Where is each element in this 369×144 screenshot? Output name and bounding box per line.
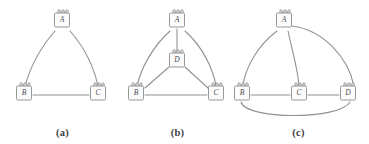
node-c-B[interactable]: B	[235, 83, 250, 100]
graph-c-canvas: A B C D	[228, 0, 369, 118]
graph-panel-c: A B C D (c)	[228, 0, 369, 144]
node-label: B	[134, 88, 139, 97]
edge-c-B-D	[241, 102, 350, 116]
node-c-D[interactable]: D	[341, 83, 356, 100]
node-label: D	[344, 88, 351, 97]
node-label: A	[59, 15, 65, 24]
graph-panel-b: A D B C (b)	[115, 0, 240, 144]
node-c-A[interactable]: A	[277, 10, 292, 27]
graph-panel-a: A B C (a)	[0, 0, 125, 144]
edge-c-A-D	[292, 26, 354, 86]
node-label: A	[281, 15, 287, 24]
node-b-A[interactable]: A	[170, 10, 185, 27]
edge-b-A-B	[137, 31, 170, 86]
graph-a-canvas: A B C	[0, 0, 125, 118]
node-a-C[interactable]: C	[91, 83, 106, 100]
panel-a-caption: (a)	[0, 127, 125, 138]
edge-b-D-C	[185, 67, 208, 88]
node-b-C[interactable]: C	[209, 83, 224, 100]
node-b-B[interactable]: B	[129, 83, 144, 100]
figure-three-graphs: A B C (a)	[0, 0, 369, 144]
node-label: B	[240, 88, 245, 97]
edge-a-A-B	[25, 31, 55, 86]
edge-c-A-C	[288, 31, 299, 86]
node-label: D	[173, 55, 180, 64]
edge-b-D-B	[145, 67, 169, 88]
node-b-D[interactable]: D	[170, 50, 185, 67]
node-label: A	[174, 15, 180, 24]
node-c-C[interactable]: C	[292, 83, 307, 100]
node-a-B[interactable]: B	[17, 83, 32, 100]
edge-b-A-C	[185, 31, 216, 86]
panel-b-caption: (b)	[115, 127, 240, 138]
node-label: B	[22, 88, 27, 97]
graph-b-canvas: A D B C	[115, 0, 240, 118]
node-a-A[interactable]: A	[55, 10, 70, 27]
panel-c-caption: (c)	[228, 127, 369, 138]
edge-c-A-B	[243, 31, 277, 86]
edge-a-A-C	[70, 31, 98, 86]
